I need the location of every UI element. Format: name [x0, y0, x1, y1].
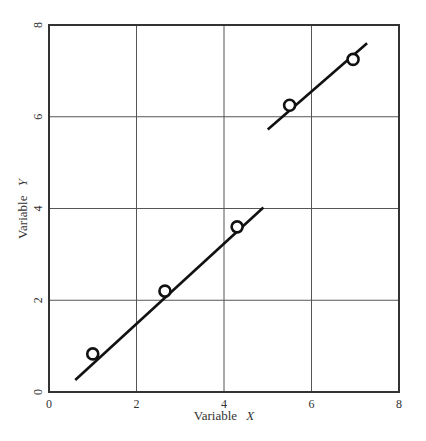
y-axis-ticks: 02468 [31, 22, 45, 395]
y-axis-label-var: Y [15, 177, 30, 186]
y-axis-label-prefix: Variable [15, 195, 30, 239]
data-point-marker [348, 54, 359, 65]
data-point-marker [87, 348, 98, 359]
y-axis-label: Variable Y [15, 177, 30, 239]
y-tick-label: 6 [31, 114, 45, 120]
grid-lines [49, 25, 399, 392]
data-point-marker [232, 221, 243, 232]
fit-lines [75, 43, 367, 380]
x-axis-label-var: X [245, 408, 255, 423]
x-tick-label: 8 [396, 397, 402, 411]
data-points [87, 54, 358, 360]
y-tick-label: 4 [31, 206, 45, 212]
x-tick-label: 0 [46, 397, 52, 411]
x-tick-label: 2 [134, 397, 140, 411]
x-axis-label: Variable X [194, 408, 256, 423]
data-point-marker [159, 286, 170, 297]
scatter-chart: 02468 02468 Variable X Variable Y [0, 0, 426, 441]
y-tick-label: 2 [31, 297, 45, 303]
data-point-marker [284, 100, 295, 111]
y-tick-label: 0 [31, 389, 45, 395]
x-axis-label-prefix: Variable [194, 408, 238, 423]
x-tick-label: 6 [309, 397, 315, 411]
y-tick-label: 8 [31, 22, 45, 28]
